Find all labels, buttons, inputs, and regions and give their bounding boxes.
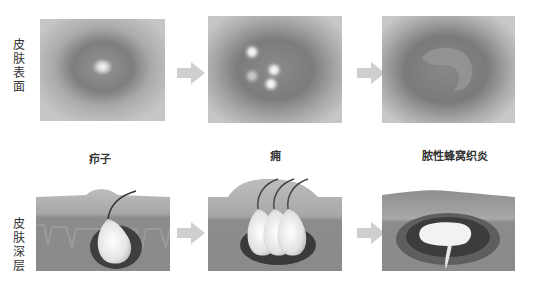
carbuncle-surface-illustration xyxy=(208,16,342,123)
cellulitis-deep-illustration xyxy=(382,187,515,271)
caption-carbuncle: 痈 xyxy=(235,147,315,163)
deep-panel-cellulitis xyxy=(382,187,515,271)
row-label-skin-surface: 皮肤表面 xyxy=(12,38,26,94)
deep-panel-furuncle xyxy=(36,185,170,271)
carbuncle-deep-illustration xyxy=(208,165,342,271)
furuncle-surface-illustration xyxy=(40,19,165,121)
row-label-skin-deep: 皮肤深层 xyxy=(12,217,26,273)
arrow-right-icon xyxy=(177,222,205,244)
caption-cellulitis: 脓性蜂窝织炎 xyxy=(405,147,505,163)
arrow-right-icon xyxy=(177,62,205,84)
furuncle-deep-illustration xyxy=(36,185,170,271)
arrow-right-icon xyxy=(357,222,385,244)
deep-panel-carbuncle xyxy=(208,165,342,271)
surface-panel-cellulitis xyxy=(382,16,515,123)
arrow-right-icon xyxy=(357,62,385,84)
cellulitis-surface-illustration xyxy=(382,16,515,123)
caption-furuncle: 疖子 xyxy=(60,150,140,166)
surface-panel-carbuncle xyxy=(208,16,342,123)
surface-panel-furuncle xyxy=(40,19,165,121)
